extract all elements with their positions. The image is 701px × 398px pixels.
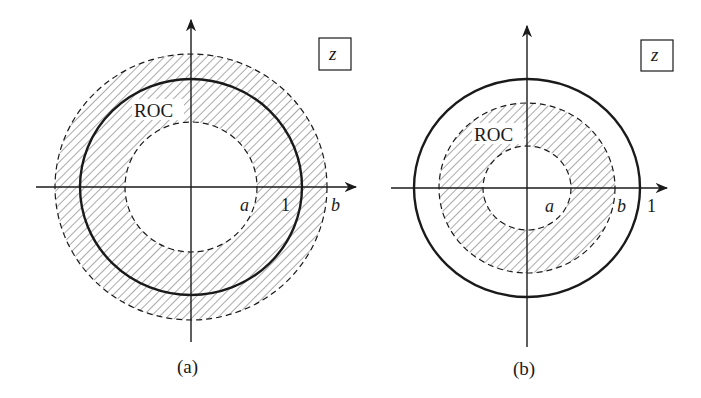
label-b: b [331,195,340,215]
panel-a: ROC z a 1 b (a) [36,20,356,378]
roc-label: ROC [134,100,173,121]
roc-label: ROC [474,124,513,145]
label-a: a [240,195,249,215]
caption-b: (b) [513,358,535,380]
label-1: 1 [647,196,656,216]
z-plane-label: z [650,44,659,65]
label-b: b [617,196,626,216]
z-plane-label: z [328,43,337,64]
label-1: 1 [281,195,290,215]
label-a: a [545,196,554,216]
roc-figure: ROC z a 1 b (a) ROC z a b 1 (b) [0,0,701,398]
panel-b: ROC z a b 1 (b) [391,26,673,380]
caption-a: (a) [177,356,198,378]
